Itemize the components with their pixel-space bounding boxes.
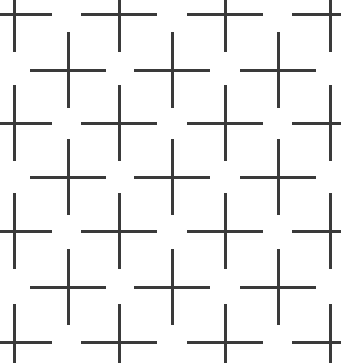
cross-grid-illusion-canvas — [0, 0, 341, 363]
illusion-figure-container — [0, 0, 341, 363]
